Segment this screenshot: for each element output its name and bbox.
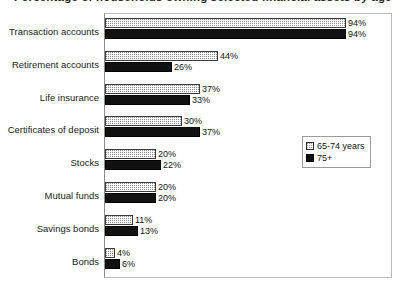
legend-item-65-74[interactable]: 65-74 years [306, 140, 365, 151]
bar-value-label: 94% [346, 18, 366, 28]
bar-value-label: 44% [218, 51, 238, 61]
category-label: Stocks [0, 157, 99, 168]
category-label: Transaction accounts [0, 26, 99, 37]
legend-item-75-plus[interactable]: 75+ [306, 152, 365, 163]
legend-swatch-icon-75-plus [306, 154, 314, 162]
category-label: Bonds [0, 256, 99, 267]
legend-swatch-icon-65-74 [306, 142, 314, 150]
bar-series-75-plus [105, 29, 346, 39]
bar-value-label: 94% [346, 29, 366, 39]
bar-series-65-74 [105, 51, 218, 61]
bar-value-label: 4% [115, 248, 130, 258]
bar-series-75-plus [105, 226, 138, 236]
bar-value-label: 22% [161, 160, 181, 170]
bar-value-label: 20% [156, 182, 176, 192]
bar-value-label: 26% [172, 62, 192, 72]
chart-legend: 65-74 years 75+ [302, 136, 371, 168]
bar-series-75-plus [105, 127, 200, 137]
bar-series-75-plus [105, 62, 172, 72]
bar-value-label: 37% [200, 84, 220, 94]
bar-series-75-plus [105, 259, 120, 269]
bar-chart: Percentage of households owning selected… [0, 0, 406, 292]
bar-series-65-74 [105, 18, 346, 28]
bar-value-label: 20% [156, 149, 176, 159]
bar-series-75-plus [105, 160, 161, 170]
bar-series-75-plus [105, 95, 190, 105]
category-label: Retirement accounts [0, 59, 99, 70]
chart-title: Percentage of households owning selected… [14, 0, 392, 3]
bar-series-65-74 [105, 84, 200, 94]
bar-value-label: 11% [133, 215, 152, 225]
bar-value-label: 30% [182, 116, 202, 126]
bar-value-label: 37% [200, 127, 220, 137]
bar-series-65-74 [105, 116, 182, 126]
bar-series-65-74 [105, 182, 156, 192]
category-label: Savings bonds [0, 223, 99, 234]
bar-value-label: 13% [138, 226, 158, 236]
bar-series-65-74 [105, 215, 133, 225]
category-label: Certificates of deposit [0, 124, 99, 135]
category-label: Mutual funds [0, 190, 99, 201]
category-axis-labels: Transaction accountsRetirement accountsL… [0, 13, 99, 278]
legend-label-75-plus: 75+ [317, 153, 332, 163]
bar-value-label: 20% [156, 193, 176, 203]
category-label: Life insurance [0, 92, 99, 103]
bar-series-65-74 [105, 149, 156, 159]
bar-series-65-74 [105, 248, 115, 258]
bar-value-label: 33% [190, 95, 210, 105]
bar-series-75-plus [105, 193, 156, 203]
legend-label-65-74: 65-74 years [317, 141, 365, 151]
bar-value-label: 6% [120, 259, 135, 269]
